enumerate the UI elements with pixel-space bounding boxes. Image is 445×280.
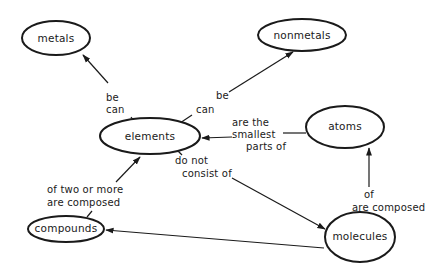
edge-line-molecules-compounds (106, 230, 324, 248)
node-metals: metals (22, 21, 90, 55)
edge-molecules-atoms: of are composed (352, 148, 425, 213)
edge-line-atoms-elements (202, 137, 232, 138)
edge-tail-compounds-elements (87, 211, 92, 217)
edge-label-compounds-elements-line2: are composed (47, 197, 120, 208)
edge-elements-molecules: do not consist of (175, 151, 325, 229)
edge-label-elements-metals-line1: be (106, 92, 119, 103)
edge-label-elements-metals-line2: can (106, 104, 125, 115)
edge-line-elements-molecules (232, 178, 325, 229)
node-elements: elements (100, 118, 200, 154)
concept-map-diagram: be can be can are the smallest parts of … (0, 0, 445, 280)
edge-line-elements-nonmetals (229, 52, 293, 92)
edge-label-elements-nonmetals-line2: can (196, 104, 215, 115)
edge-elements-nonmetals: be can (180, 52, 293, 123)
edge-label-elements-molecules-line1: do not (175, 155, 208, 166)
edge-label-elements-nonmetals-line1: be (216, 90, 229, 101)
edge-label-elements-molecules-line2: consist of (182, 168, 232, 179)
edge-label-atoms-elements-line1: are the (232, 117, 269, 128)
edge-label-molecules-atoms-line1: of (364, 189, 374, 200)
edge-label-atoms-elements-line3: parts of (246, 141, 286, 152)
node-molecules: molecules (325, 212, 395, 262)
edge-label-atoms-elements-line2: smallest (232, 129, 276, 140)
node-compounds-label: compounds (35, 222, 98, 234)
edge-line-elements-metals (83, 55, 108, 83)
edge-label-compounds-elements-line1: of two or more (47, 184, 123, 195)
node-compounds: compounds (28, 216, 104, 242)
node-nonmetals: nonmetals (258, 19, 346, 51)
edge-molecules-compounds (106, 230, 324, 248)
edge-elements-metals: be can (83, 55, 134, 121)
node-atoms-label: atoms (328, 120, 362, 132)
node-nonmetals-label: nonmetals (273, 29, 330, 41)
edge-line-compounds-elements (116, 157, 140, 182)
node-atoms: atoms (306, 106, 384, 148)
node-metals-label: metals (38, 32, 75, 44)
edge-compounds-elements: of two or more are composed (47, 157, 140, 217)
node-elements-label: elements (125, 130, 175, 142)
node-molecules-label: molecules (332, 230, 387, 242)
edge-atoms-elements: are the smallest parts of (202, 117, 306, 152)
